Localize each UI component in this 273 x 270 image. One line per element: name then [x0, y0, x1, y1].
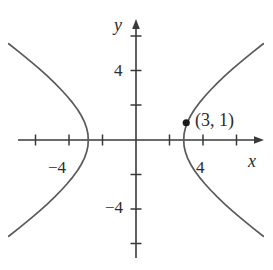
marked-point-3-1: [183, 119, 190, 126]
y-tick-label-negative-4: −4: [105, 199, 123, 216]
y-tick-label-positive-4: 4: [114, 62, 123, 79]
plot-canvas: [0, 0, 273, 270]
hyperbola-figure: −4 4 4 −4 x y (3, 1): [0, 0, 273, 270]
x-tick-label-negative-4: −4: [48, 159, 66, 176]
y-axis-arrow-icon: [132, 19, 140, 29]
x-tick-label-positive-4: 4: [196, 159, 205, 176]
x-axis-label: x: [248, 152, 256, 170]
y-axis-label: y: [114, 16, 122, 34]
point-coordinate-label: (3, 1): [195, 111, 234, 129]
x-axis-arrow-icon: [254, 136, 264, 144]
